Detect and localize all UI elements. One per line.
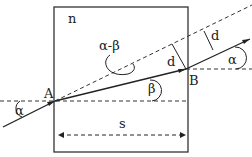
angle-arc-deviation	[106, 55, 135, 75]
arrow-icon	[180, 132, 186, 138]
exit-ray	[186, 39, 250, 69]
point-b-label: B	[189, 74, 199, 87]
refraction-diagram	[0, 0, 252, 157]
arrow-icon	[178, 69, 186, 73]
incident-ray	[3, 101, 55, 127]
angle-alpha-label: α	[15, 104, 24, 117]
arrow-icon	[58, 132, 64, 138]
width-s-label: s	[119, 117, 126, 130]
displacement-d2-label: d	[211, 29, 219, 42]
angle-beta-label: β	[148, 82, 156, 95]
angle-alpha-exit-label: α	[228, 53, 237, 66]
angle-deviation-label: α-β	[99, 39, 120, 52]
point-a-label: A	[44, 87, 53, 100]
refracted-ray	[55, 69, 186, 101]
displacement-d1-label: d	[167, 55, 175, 68]
medium-label: n	[68, 12, 76, 25]
arrow-icon	[242, 39, 250, 44]
